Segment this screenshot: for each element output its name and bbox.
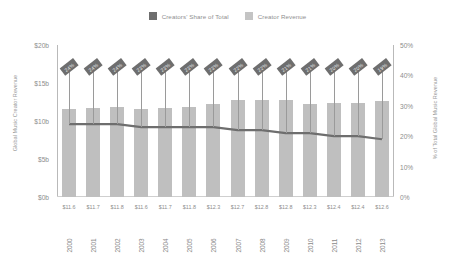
y-tick-left-0: $20b <box>15 42 49 49</box>
bar-value-label: $12.8 <box>249 204 275 210</box>
callout-stem <box>213 67 214 127</box>
y-tick-left-4: $0b <box>15 194 49 201</box>
y-tick-right-0: 50% <box>400 42 434 49</box>
plot-area: $11.62000$11.72001$11.82002$11.62003$11.… <box>57 45 394 197</box>
bar-value-label: $11.7 <box>152 204 178 210</box>
y-tick-right-1: 40% <box>400 72 434 79</box>
legend-swatch-creator-revenue <box>245 12 253 20</box>
bar-value-label: $11.8 <box>104 204 130 210</box>
bar-value-label: $12.4 <box>321 204 347 210</box>
x-axis-year-label: 2003 <box>138 238 145 252</box>
x-axis-year-label: 2008 <box>258 238 265 252</box>
x-axis-year-label: 2013 <box>378 238 385 252</box>
chart-container: Creators' Share of Total Creator Revenue… <box>0 0 455 272</box>
chart-legend: Creators' Share of Total Creator Revenue <box>0 12 455 20</box>
callout-stem <box>310 67 311 133</box>
x-axis-year-label: 2012 <box>354 238 361 252</box>
callout-stem <box>117 67 118 124</box>
x-axis-year-label: 2007 <box>234 238 241 252</box>
trend-line-path <box>69 124 382 139</box>
legend-label-creator-revenue: Creator Revenue <box>258 13 307 20</box>
bar-value-label: $11.7 <box>80 204 106 210</box>
bar-value-label: $11.6 <box>56 204 82 210</box>
x-axis-year-label: 2000 <box>66 238 73 252</box>
bar-value-label: $12.3 <box>200 204 226 210</box>
callout-stem <box>334 67 335 136</box>
y-tick-right-4: 10% <box>400 164 434 171</box>
x-axis-year-label: 2006 <box>210 238 217 252</box>
bar-value-label: $11.8 <box>176 204 202 210</box>
legend-item-creators-share: Creators' Share of Total <box>149 12 229 20</box>
callout-stem <box>358 67 359 136</box>
bar-value-label: $12.7 <box>225 204 251 210</box>
y-tick-left-2: $10b <box>15 118 49 125</box>
bar-value-label: $11.6 <box>128 204 154 210</box>
x-axis-year-label: 2005 <box>186 238 193 252</box>
y-tick-right-2: 30% <box>400 103 434 110</box>
callout-stem <box>286 67 287 133</box>
callout-stem <box>93 67 94 124</box>
callout-stem <box>189 67 190 127</box>
legend-label-creators-share: Creators' Share of Total <box>162 13 229 20</box>
callout-stem <box>238 67 239 130</box>
y-tick-left-3: $5b <box>15 156 49 163</box>
callout-stem <box>165 67 166 127</box>
callout-stem <box>382 67 383 139</box>
legend-swatch-creators-share <box>149 12 157 20</box>
bar-value-label: $12.8 <box>273 204 299 210</box>
callout-stem <box>69 67 70 124</box>
y-tick-left-1: $15b <box>15 80 49 87</box>
x-axis-year-label: 2010 <box>306 238 313 252</box>
x-axis-year-label: 2004 <box>162 238 169 252</box>
y-tick-right-3: 20% <box>400 133 434 140</box>
x-axis-year-label: 2002 <box>114 238 121 252</box>
legend-item-creator-revenue: Creator Revenue <box>245 12 307 20</box>
bar-value-label: $12.4 <box>345 204 371 210</box>
y-tick-right-5: 0% <box>400 194 434 201</box>
callout-stem <box>141 67 142 127</box>
bar-value-label: $12.6 <box>369 204 395 210</box>
x-axis-year-label: 2001 <box>90 238 97 252</box>
bar-value-label: $12.3 <box>297 204 323 210</box>
callout-stem <box>262 67 263 130</box>
x-axis-year-label: 2009 <box>282 238 289 252</box>
x-axis-year-label: 2011 <box>330 239 337 253</box>
